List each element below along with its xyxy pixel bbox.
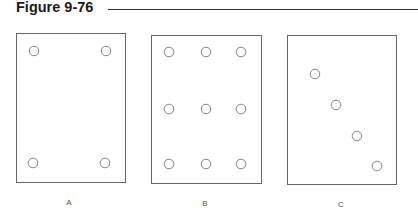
panel-label-a: A [66, 198, 71, 207]
panel-b [152, 36, 262, 184]
hole-icon [352, 131, 362, 141]
hole-icon [100, 158, 110, 168]
hole-icon [331, 100, 341, 110]
hole-icon [29, 46, 39, 56]
hole-icon [164, 159, 174, 169]
panel-label-b: B [202, 199, 207, 208]
hole-icon [28, 158, 38, 168]
hole-icon [236, 159, 246, 169]
hole-icon [201, 104, 211, 114]
hole-pattern-diagram [0, 0, 418, 215]
hole-icon [164, 47, 174, 57]
hole-icon [101, 46, 111, 56]
panel-c [288, 36, 397, 185]
hole-icon [310, 69, 320, 79]
hole-icon [236, 104, 246, 114]
hole-icon [372, 161, 382, 171]
panel-label-c: C [338, 200, 344, 209]
hole-icon [201, 47, 211, 57]
hole-icon [164, 104, 174, 114]
hole-icon [236, 47, 246, 57]
panel-a [17, 34, 126, 183]
hole-icon [201, 159, 211, 169]
